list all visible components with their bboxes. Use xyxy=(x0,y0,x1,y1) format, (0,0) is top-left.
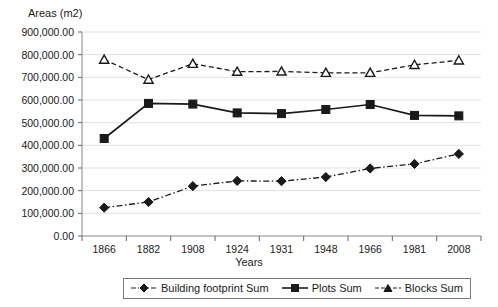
data-point-marker-diamond xyxy=(100,203,109,212)
y-tick-label: 0.00 xyxy=(54,230,75,242)
legend-item-blocks-sum: Blocks Sum xyxy=(375,283,463,294)
legend-marker-triangle-icon xyxy=(375,283,401,293)
y-tick-label: 800,000.00 xyxy=(21,49,74,61)
data-series xyxy=(100,99,463,142)
x-tick-label: 1908 xyxy=(181,243,205,255)
data-point-marker-square xyxy=(366,101,374,109)
y-tick-label: 400,000.00 xyxy=(21,139,74,151)
x-tick-label: 2008 xyxy=(447,243,471,255)
data-point-marker-diamond xyxy=(144,197,153,206)
x-tick-label: 1924 xyxy=(225,243,249,255)
data-point-marker-diamond xyxy=(410,159,419,168)
y-tick-label: 100,000.00 xyxy=(21,207,74,219)
x-tick-label: 1966 xyxy=(358,243,382,255)
data-point-marker-square xyxy=(455,112,463,120)
data-point-marker-diamond xyxy=(321,172,330,181)
legend-marker-square-icon xyxy=(282,283,308,293)
y-tick-label: 300,000.00 xyxy=(21,162,74,174)
x-tick-label: 1981 xyxy=(403,243,427,255)
data-series-layer xyxy=(100,55,464,212)
x-axis-title: Years xyxy=(0,256,498,268)
y-tick-label: 900,000.00 xyxy=(21,26,74,38)
x-tick-label: 1866 xyxy=(92,243,116,255)
legend-item-building-footprint-sum: Building footprint Sum xyxy=(131,283,269,294)
y-tick-label: 700,000.00 xyxy=(21,71,74,83)
legend-label-building-footprint-sum: Building footprint Sum xyxy=(161,283,269,294)
x-tick-label: 1882 xyxy=(137,243,161,255)
chart-container: Areas (m2) 900,000.00800,000.00700,000.0… xyxy=(0,0,498,307)
x-tick-label: 1931 xyxy=(270,243,294,255)
gridlines xyxy=(82,32,481,236)
data-series xyxy=(100,55,464,83)
data-point-marker-triangle xyxy=(188,59,197,67)
data-point-marker-diamond xyxy=(277,177,286,186)
data-point-marker-diamond xyxy=(454,149,463,158)
data-point-marker-square xyxy=(278,110,286,118)
legend-marker-diamond-icon xyxy=(131,283,157,293)
data-point-marker-square xyxy=(145,99,153,107)
x-axis-ticks: 186618821908192419311948196619812008 xyxy=(82,236,481,255)
legend-item-plots-sum: Plots Sum xyxy=(282,283,362,294)
x-tick-label: 1948 xyxy=(314,243,338,255)
data-point-marker-square xyxy=(233,109,241,117)
data-point-marker-diamond xyxy=(366,164,375,173)
data-point-marker-diamond xyxy=(233,176,242,185)
y-tick-label: 500,000.00 xyxy=(21,117,74,129)
data-point-marker-triangle xyxy=(366,68,375,76)
chart-legend: Building footprint Sum Plots Sum Blocks … xyxy=(123,278,471,299)
data-point-marker-square xyxy=(100,135,108,143)
data-point-marker-diamond xyxy=(188,182,197,191)
data-point-marker-triangle xyxy=(100,55,109,63)
legend-label-plots-sum: Plots Sum xyxy=(312,283,362,294)
data-point-marker-square xyxy=(189,100,197,108)
data-point-marker-square xyxy=(411,111,419,119)
data-series xyxy=(100,149,464,212)
series-line xyxy=(104,103,459,138)
y-tick-label: 600,000.00 xyxy=(21,94,74,106)
data-point-marker-square xyxy=(322,106,330,114)
y-axis-ticks: 900,000.00800,000.00700,000.00600,000.00… xyxy=(21,26,82,242)
y-tick-label: 200,000.00 xyxy=(21,185,74,197)
data-point-marker-triangle xyxy=(454,56,463,64)
legend-label-blocks-sum: Blocks Sum xyxy=(405,283,463,294)
